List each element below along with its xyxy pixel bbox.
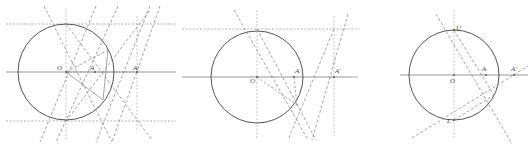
label-point-A: A bbox=[481, 65, 487, 73]
point-marker-A-prime bbox=[333, 76, 335, 78]
point-marker-A bbox=[94, 71, 96, 73]
radius-segment-upper bbox=[66, 50, 108, 72]
label-point-L: L bbox=[446, 117, 451, 125]
label-center-O: O bbox=[450, 77, 455, 85]
construction-line-tangent-point bbox=[257, 29, 316, 140]
point-marker-O bbox=[65, 71, 67, 73]
construction-line-3 bbox=[56, 6, 118, 142]
chord-segment bbox=[103, 50, 108, 100]
point-marker-A-prime bbox=[513, 74, 515, 76]
construction-line-5 bbox=[112, 6, 160, 142]
point-marker-U bbox=[453, 29, 455, 31]
panel-2-canvas: O A A' bbox=[176, 0, 352, 148]
chord-U-to-intersection bbox=[454, 30, 494, 95]
label-point-A-prime: A' bbox=[132, 64, 139, 72]
chord-L-to-intersection bbox=[454, 95, 494, 120]
panel-1-canvas: O A A' bbox=[0, 0, 176, 148]
label-center-O: O bbox=[250, 77, 255, 85]
label-point-A-prime: A' bbox=[334, 67, 341, 75]
construction-line-3 bbox=[288, 29, 334, 140]
construction-line-1 bbox=[44, 6, 112, 142]
point-marker-A bbox=[485, 74, 487, 76]
label-point-A-prime: A' bbox=[510, 65, 517, 73]
panel-3-canvas: O A A' U L bbox=[352, 0, 528, 148]
segment-O-to-intersection bbox=[257, 77, 297, 105]
point-marker-L bbox=[453, 119, 455, 121]
label-center-O: O bbox=[57, 64, 62, 72]
panel-inversion-chord-UL: O A A' U L bbox=[352, 0, 528, 148]
panel-inversion-tangent-chord: O A A' bbox=[176, 0, 352, 148]
panel-inversion-point-inside: O A A' bbox=[0, 0, 176, 148]
construction-line-2 bbox=[40, 6, 96, 142]
geometry-figure: O A A' bbox=[0, 0, 528, 148]
label-point-A: A bbox=[89, 64, 95, 72]
construction-line-through-L bbox=[412, 66, 528, 138]
label-point-A: A bbox=[294, 67, 300, 75]
construction-line-4 bbox=[96, 6, 150, 142]
point-marker-A bbox=[293, 76, 295, 78]
point-marker-O bbox=[256, 76, 258, 78]
point-marker-O bbox=[453, 74, 455, 76]
radius-segment-lower bbox=[66, 72, 103, 100]
